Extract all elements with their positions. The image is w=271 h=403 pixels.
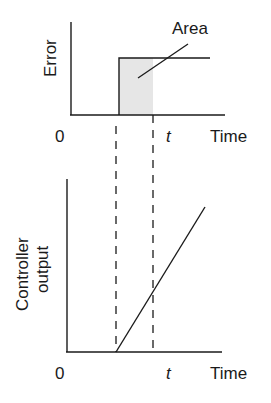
output-x-label: Time <box>210 364 247 383</box>
shaded-area <box>119 58 153 115</box>
controller-output-panel: Controller output 0 t Time <box>13 179 247 383</box>
output-t-label: t <box>166 364 172 383</box>
output-y-label-line1: Controller <box>13 237 32 311</box>
area-annotation: Area <box>172 19 208 38</box>
time-guide-lines <box>116 115 153 352</box>
error-t-label: t <box>166 127 172 146</box>
integral-action-diagram: Area Error 0 t Time Controller output 0 … <box>0 0 271 403</box>
error-y-label: Error <box>41 39 60 77</box>
output-origin-label: 0 <box>55 364 64 383</box>
output-ramp-signal <box>116 207 205 352</box>
error-origin-label: 0 <box>55 127 64 146</box>
error-x-label: Time <box>210 127 247 146</box>
output-y-label-line2: output <box>33 245 52 293</box>
error-panel: Area Error 0 t Time <box>41 19 247 146</box>
